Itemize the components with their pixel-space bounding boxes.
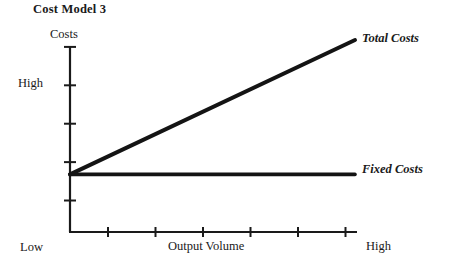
axis-lines bbox=[69, 47, 357, 232]
series-line-total-costs bbox=[70, 40, 355, 174]
chart-canvas: Cost Model 3 Costs High Low Output Volum… bbox=[0, 0, 450, 265]
data-series-lines bbox=[70, 40, 355, 174]
plot-area bbox=[0, 0, 450, 265]
